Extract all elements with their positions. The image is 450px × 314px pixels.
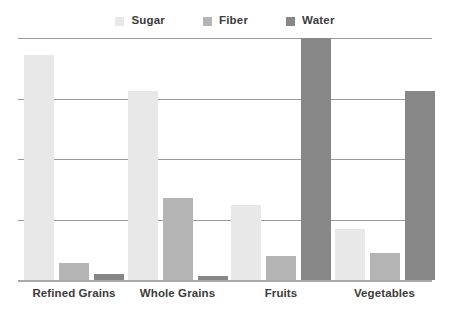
x-axis-label-fruits: Fruits	[229, 286, 333, 300]
x-axis-label-vegetables: Vegetables	[333, 286, 437, 300]
bar-sugar-fruits[interactable]	[231, 205, 261, 280]
bar-water-refined-grains[interactable]	[94, 274, 124, 280]
bar-chart: Sugar Fiber Water Refined GrainsWhole Gr…	[0, 0, 450, 314]
bar-water-whole-grains[interactable]	[198, 276, 228, 280]
bar-fiber-refined-grains[interactable]	[59, 263, 89, 280]
bar-sugar-refined-grains[interactable]	[24, 55, 54, 280]
x-axis-label-refined-grains: Refined Grains	[22, 286, 126, 300]
bars-container	[18, 38, 432, 280]
legend-label: Water	[302, 15, 335, 27]
legend-label: Fiber	[219, 15, 248, 27]
x-axis-tick-labels: Refined GrainsWhole GrainsFruitsVegetabl…	[18, 286, 432, 306]
x-axis-label-whole-grains: Whole Grains	[126, 286, 230, 300]
legend-item-sugar[interactable]: Sugar	[115, 15, 165, 27]
legend-label: Sugar	[131, 15, 165, 27]
bar-water-vegetables[interactable]	[405, 91, 435, 280]
bar-fiber-fruits[interactable]	[266, 256, 296, 280]
x-axis-line	[18, 280, 432, 282]
legend-item-water[interactable]: Water	[286, 15, 335, 27]
bar-sugar-vegetables[interactable]	[335, 229, 365, 280]
bar-fiber-whole-grains[interactable]	[163, 198, 193, 280]
bar-sugar-whole-grains[interactable]	[128, 91, 158, 280]
chart-legend: Sugar Fiber Water	[0, 12, 450, 30]
legend-swatch-icon	[115, 17, 124, 26]
bar-fiber-vegetables[interactable]	[370, 253, 400, 280]
legend-item-fiber[interactable]: Fiber	[203, 15, 248, 27]
legend-swatch-icon	[286, 17, 295, 26]
bar-water-fruits[interactable]	[301, 38, 331, 280]
legend-swatch-icon	[203, 17, 212, 26]
